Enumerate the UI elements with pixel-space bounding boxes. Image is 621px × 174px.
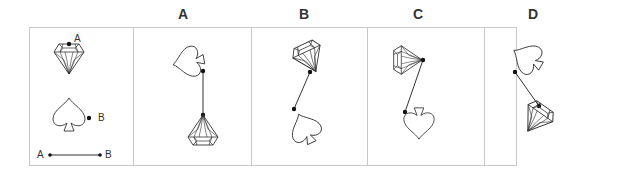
reference-spade	[53, 98, 85, 131]
option-a-figure[interactable]	[170, 44, 218, 145]
option-b-figure[interactable]	[285, 38, 330, 149]
option-c-figure[interactable]	[394, 46, 435, 139]
point-a-label: A	[74, 33, 81, 44]
segment-start-label: A	[37, 149, 44, 160]
option-d-figure[interactable]	[506, 37, 557, 139]
point-b-dot	[87, 116, 91, 120]
point-b-label: B	[98, 112, 105, 123]
point-a-dot	[67, 42, 71, 46]
reference-gem	[54, 44, 84, 74]
segment-end-label: B	[105, 149, 112, 160]
figures-canvas: A B A B	[0, 0, 621, 174]
